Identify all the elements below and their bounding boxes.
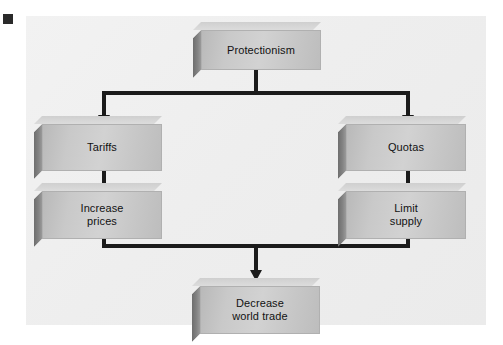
- node-top-face: [34, 183, 162, 191]
- node-top-face: [338, 116, 466, 124]
- black-square-marker: [3, 14, 13, 24]
- node-label: Tariffs: [87, 141, 117, 154]
- node-limit-supply[interactable]: Limit supply: [338, 183, 466, 239]
- node-front-face: Increase prices: [42, 191, 162, 239]
- node-top-face: [192, 278, 320, 286]
- node-side-face: [193, 30, 201, 78]
- node-decrease-world-trade[interactable]: Decrease world trade: [192, 278, 320, 334]
- node-side-face: [338, 191, 346, 247]
- node-top-face: [193, 22, 321, 30]
- node-front-face: Limit supply: [346, 191, 466, 239]
- node-tariffs[interactable]: Tariffs: [34, 116, 162, 171]
- node-protectionism[interactable]: Protectionism: [193, 22, 321, 70]
- node-side-face: [34, 124, 42, 179]
- node-increase-prices[interactable]: Increase prices: [34, 183, 162, 239]
- diagram-canvas: Protectionism Tariffs Quotas Increase pr…: [0, 0, 503, 345]
- node-top-face: [338, 183, 466, 191]
- node-front-face: Tariffs: [42, 124, 162, 171]
- node-front-face: Decrease world trade: [200, 286, 320, 334]
- edge-to-tariffs: [102, 91, 106, 117]
- edge-split-bar-top: [102, 91, 410, 95]
- node-front-face: Protectionism: [201, 30, 321, 70]
- node-label: Protectionism: [227, 44, 295, 57]
- node-label: Decrease world trade: [232, 297, 288, 323]
- diagram-panel: Protectionism Tariffs Quotas Increase pr…: [26, 16, 486, 325]
- edge-to-quotas: [406, 91, 410, 117]
- node-side-face: [338, 124, 346, 179]
- node-front-face: Quotas: [346, 124, 466, 171]
- node-top-face: [34, 116, 162, 124]
- node-label: Increase prices: [81, 202, 124, 228]
- node-quotas[interactable]: Quotas: [338, 116, 466, 171]
- edge-to-decrease-world-trade: [254, 244, 258, 272]
- node-label: Limit supply: [390, 202, 422, 228]
- node-side-face: [192, 286, 200, 342]
- node-side-face: [34, 191, 42, 247]
- node-label: Quotas: [388, 141, 424, 154]
